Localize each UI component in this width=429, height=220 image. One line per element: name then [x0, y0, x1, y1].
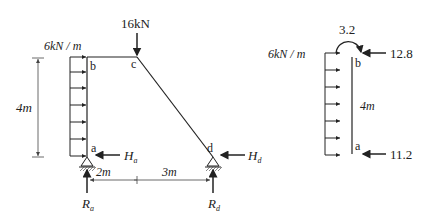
- fbd-distributed-load: [325, 53, 340, 155]
- pin-support-d: [205, 157, 222, 171]
- fbd-node-b-label: b: [355, 56, 361, 70]
- Ha-label: Ha: [123, 148, 137, 165]
- reaction-Ha: Ha: [96, 148, 137, 165]
- right-free-body-diagram: 6kN / m b a 4m 3.2 12.8 11.2: [268, 22, 413, 162]
- top-force-label: 12.8: [390, 46, 413, 61]
- height-dimension: 4m: [14, 58, 44, 157]
- span-dimensions: 2m 3m: [90, 165, 210, 184]
- span-label-3m: 3m: [161, 165, 177, 179]
- reaction-Ra: Ra: [81, 170, 94, 213]
- point-load-16kN: 16kN: [121, 16, 151, 55]
- Hd-label: Hd: [247, 148, 262, 165]
- node-d-label: d: [207, 141, 213, 155]
- moment-arrow: 3.2: [336, 22, 361, 53]
- distributed-load: 6kN / m: [44, 39, 86, 156]
- node-a-label: a: [91, 141, 97, 155]
- frame-members: [87, 57, 213, 157]
- Rd-label: Rd: [207, 196, 221, 213]
- height-label: 4m: [16, 100, 32, 115]
- Ra-label: Ra: [81, 196, 94, 213]
- fbd-load-label: 6kN / m: [268, 47, 306, 61]
- node-b-label: b: [90, 59, 96, 73]
- span-label-2m: 2m: [96, 165, 111, 179]
- moment-label: 3.2: [339, 22, 355, 37]
- structural-diagram: 4m 6kN / m b c a d 16kN: [0, 0, 429, 220]
- node-c-label: c: [131, 57, 136, 71]
- fbd-node-a-label: a: [355, 139, 361, 153]
- bottom-force-label: 11.2: [390, 147, 412, 162]
- pin-support-a: [79, 157, 96, 171]
- point-load-label: 16kN: [121, 16, 151, 31]
- top-force: 12.8: [363, 46, 413, 61]
- left-frame: 4m 6kN / m b c a d 16kN: [14, 16, 262, 213]
- reaction-Rd: Rd: [207, 170, 221, 213]
- reaction-Hd: Hd: [221, 148, 262, 165]
- fbd-length-label: 4m: [360, 99, 375, 113]
- load-label: 6kN / m: [44, 39, 82, 53]
- bottom-force: 11.2: [363, 147, 412, 162]
